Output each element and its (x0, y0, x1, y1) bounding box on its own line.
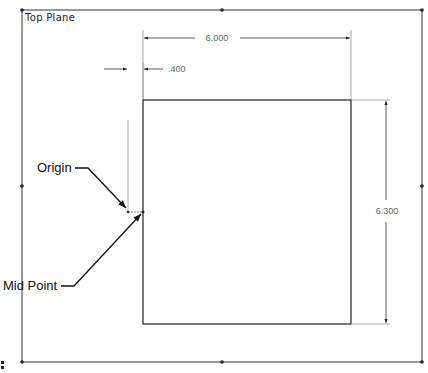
frame-handle-right-mid[interactable] (420, 184, 424, 188)
marker-dot (1, 361, 4, 364)
height-dimension[interactable]: 6.300 (376, 206, 399, 216)
sketch-rectangle[interactable] (143, 100, 351, 324)
origin-point[interactable] (127, 211, 130, 214)
width-dimension[interactable]: 6.000 (206, 33, 229, 43)
sketch-canvas: Top Plane 6.000 .400 6.300 Origin Mid Po… (0, 0, 428, 373)
frame-handle-top-mid[interactable] (220, 8, 224, 12)
frame-handle-top-left[interactable] (20, 8, 24, 12)
plane-frame[interactable] (22, 10, 422, 362)
mid-point[interactable] (142, 211, 145, 214)
mid-point-leader-arrow (61, 214, 141, 286)
frame-handle-top-right[interactable] (420, 8, 424, 12)
origin-leader-arrow (75, 168, 126, 208)
marker-dot (1, 366, 4, 369)
offset-dimension[interactable]: .400 (168, 64, 186, 74)
frame-handle-bottom-left[interactable] (20, 360, 24, 364)
frame-handle-bottom-right[interactable] (420, 360, 424, 364)
mid-point-callout-label: Mid Point (3, 278, 58, 293)
origin-callout-label: Origin (37, 160, 72, 175)
frame-handle-left-mid[interactable] (20, 184, 24, 188)
plane-label: Top Plane (24, 12, 75, 23)
frame-handle-bottom-mid[interactable] (220, 360, 224, 364)
